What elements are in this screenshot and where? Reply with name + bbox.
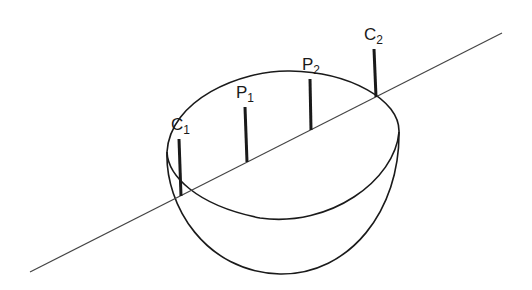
label-p2-main: P xyxy=(302,55,313,74)
label-c2-sub: 2 xyxy=(376,33,383,47)
marker-c2 xyxy=(374,49,376,97)
label-c1-sub: 1 xyxy=(183,123,190,137)
label-c1-main: C xyxy=(171,115,183,134)
label-p1-main: P xyxy=(236,83,247,102)
label-p2: P2 xyxy=(302,56,320,76)
label-p1: P1 xyxy=(236,84,254,104)
label-c2-main: C xyxy=(364,25,376,44)
cutting-line xyxy=(30,33,502,272)
marker-c1 xyxy=(179,139,181,196)
rim-front-arc xyxy=(167,132,399,219)
label-p2-sub: 2 xyxy=(313,63,320,77)
marker-p2 xyxy=(310,79,311,130)
label-p1-sub: 1 xyxy=(247,91,254,105)
marker-p1 xyxy=(245,107,247,162)
hemisphere-diagram xyxy=(0,0,532,290)
bowl-body xyxy=(167,132,399,274)
label-c2: C2 xyxy=(364,26,383,46)
rim-back-arc xyxy=(167,71,399,152)
label-c1: C1 xyxy=(171,116,190,136)
